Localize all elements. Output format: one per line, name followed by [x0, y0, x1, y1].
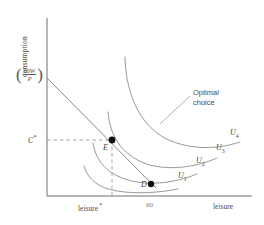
u3-subscript: 3 — [222, 148, 225, 154]
c-star-label: C* — [28, 133, 37, 145]
curve-u4 — [125, 57, 240, 148]
leisure-star-asterisk: * — [98, 201, 102, 208]
u4-subscript: 4 — [236, 133, 239, 139]
optimal-choice-leader-line — [160, 96, 190, 124]
x-axis-tick-60: 60 — [146, 201, 153, 209]
curve-u1 — [84, 166, 178, 193]
fraction-denominator: P — [28, 76, 32, 82]
optimal-choice-line-1: Optimal — [193, 88, 219, 98]
u1-subscript: 1 — [184, 176, 187, 182]
c-star-asterisk: * — [33, 133, 37, 141]
optimal-choice-line-2: choice — [193, 98, 219, 108]
indifference-curves — [84, 57, 240, 193]
point-d-label: D — [141, 180, 147, 189]
right-paren: ) — [37, 66, 43, 83]
indifference-curve-figure: consumption leisure ( 60W P ) C* leisure… — [0, 0, 264, 225]
point-e-label: E — [103, 143, 108, 152]
y-axis-title: consumption — [20, 17, 29, 97]
x-axis-title: leisure — [213, 202, 233, 211]
optimal-choice-annotation: Optimal choice — [193, 88, 219, 108]
budget-constraint-line — [47, 78, 156, 188]
point-e — [109, 137, 116, 144]
axes — [47, 18, 252, 196]
point-d — [148, 181, 154, 187]
leisure-star-label: leisure* — [78, 201, 102, 213]
y-intercept-label: ( 60W P ) — [16, 66, 43, 83]
curve-label-u1: U1 — [178, 171, 187, 182]
curve-label-u3: U3 — [216, 143, 225, 154]
figure-canvas — [0, 0, 264, 225]
leisure-star-word: leisure — [78, 204, 98, 213]
u2-subscript: 2 — [202, 161, 205, 167]
curve-label-u2: U2 — [196, 156, 205, 167]
curve-label-u4: U4 — [230, 128, 239, 139]
wage-fraction: 60W P — [22, 68, 38, 82]
fraction-numerator: 60W — [23, 68, 37, 74]
